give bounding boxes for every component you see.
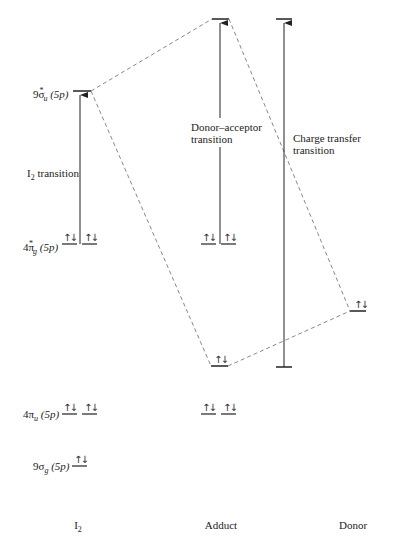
electron-pair: ↑↓ <box>63 403 76 413</box>
orbital-tail: (5p) <box>38 408 59 420</box>
orbital-base: 4π <box>23 408 34 420</box>
electron-pair: ↑↓ <box>202 403 215 413</box>
donor-acceptor-transition-label: Donor–acceptor transition <box>191 121 262 145</box>
orbital-tail: (5p) <box>37 241 58 253</box>
i2-transition-label: I2 transition <box>27 167 79 184</box>
orbital-base: 9σ <box>33 460 44 472</box>
dashed-adduct-homo-to-donor <box>228 311 350 366</box>
transition-line-1: Donor–acceptor <box>191 121 262 133</box>
dashed-sigma-to-adduct-lumo <box>91 19 212 91</box>
orbital-tail: (5p) <box>48 460 69 472</box>
column-label-i2: I2 <box>66 519 90 536</box>
label-sigma-u-star: 9σ*u (5p) <box>33 85 69 105</box>
electron-pair: ↑↓ <box>84 403 97 413</box>
label-pi-u: 4πu (5p) <box>23 408 59 425</box>
transition-text: transition <box>35 167 79 179</box>
electron-pair: ↑↓ <box>63 233 76 243</box>
dashed-adduct-lumo-to-donor <box>229 19 350 311</box>
electron-pair: ↑↓ <box>354 300 367 310</box>
column-label-donor: Donor <box>333 519 373 531</box>
electron-pair: ↑↓ <box>223 233 236 243</box>
label-pi-g-star: 4π*g (5p) <box>23 238 58 258</box>
electron-pair: ↑↓ <box>202 233 215 243</box>
electron-pair: ↑↓ <box>223 403 236 413</box>
orbital-tail: (5p) <box>47 88 68 100</box>
electron-pair: ↑↓ <box>84 233 97 243</box>
electron-pair: ↑↓ <box>214 355 227 365</box>
label-sigma-g: 9σg (5p) <box>33 460 70 477</box>
electron-pair: ↑↓ <box>74 455 87 465</box>
transition-line-2: transition <box>293 144 361 156</box>
transition-line-1: Charge transfer <box>293 132 361 144</box>
charge-transfer-transition-label: Charge transfer transition <box>293 132 361 156</box>
column-label-adduct: Adduct <box>196 519 246 531</box>
transition-arrows <box>80 23 284 367</box>
column-sub: 2 <box>78 525 82 534</box>
transition-line-2: transition <box>191 133 262 145</box>
